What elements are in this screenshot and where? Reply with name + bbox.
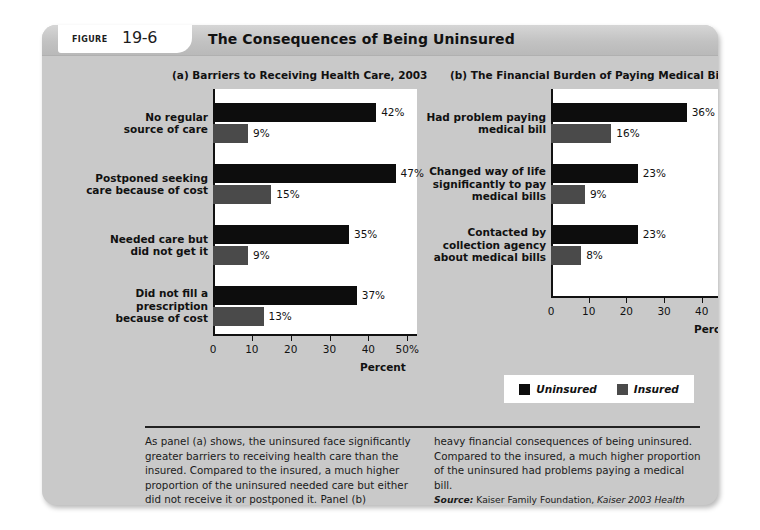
tick-label-0-40: 40 bbox=[362, 343, 375, 355]
tick-0-40 bbox=[368, 336, 369, 341]
bar-value-insured-0: 9% bbox=[253, 127, 270, 139]
tick-label-0-0: 0 bbox=[210, 343, 217, 355]
tick-0-50 bbox=[407, 336, 408, 341]
bar-uninsured-2 bbox=[213, 225, 349, 244]
bar-uninsured-2 bbox=[551, 225, 638, 244]
bar-value-insured-2: 8% bbox=[586, 249, 603, 261]
bar-insured-1 bbox=[213, 185, 271, 204]
tick-label-1-30: 30 bbox=[657, 305, 670, 317]
caption-column-left: As panel (a) shows, the uninsured face s… bbox=[145, 434, 412, 505]
caption-text-right: heavy financial consequences of being un… bbox=[434, 434, 701, 492]
bar-value-insured-3: 13% bbox=[269, 310, 292, 322]
bar-value-insured-0: 16% bbox=[616, 127, 639, 139]
panel-b-xaxis-title: Percent bbox=[694, 323, 718, 335]
category-label-0-1: Postponed seeking care because of cost bbox=[48, 172, 208, 197]
figure-card: Figure 19-6 The Consequences of Being Un… bbox=[42, 25, 718, 505]
bar-insured-2 bbox=[551, 246, 581, 265]
bar-value-insured-1: 15% bbox=[276, 188, 299, 200]
figure-label: Figure bbox=[72, 32, 108, 45]
caption-column-right: heavy financial consequences of being un… bbox=[434, 434, 701, 505]
legend-item-insured: Insured bbox=[617, 383, 679, 395]
tick-1-30 bbox=[664, 298, 665, 303]
tick-label-1-0: 0 bbox=[548, 305, 555, 317]
bar-uninsured-0 bbox=[213, 103, 376, 122]
chart-legend: Uninsured Insured bbox=[504, 375, 694, 403]
figure-title: The Consequences of Being Uninsured bbox=[208, 31, 515, 47]
bar-uninsured-0 bbox=[551, 103, 687, 122]
legend-label-insured: Insured bbox=[634, 383, 679, 395]
category-label-0-3: Did not fill a prescription because of c… bbox=[48, 287, 208, 325]
source-org: Kaiser Family Foundation, bbox=[473, 494, 597, 505]
tick-0-30 bbox=[330, 336, 331, 341]
category-label-1-0: Had problem paying medical bill bbox=[386, 111, 546, 136]
tick-label-0-10: 10 bbox=[245, 343, 258, 355]
caption-divider bbox=[145, 426, 700, 428]
bar-insured-0 bbox=[213, 124, 248, 143]
tick-label-1-10: 10 bbox=[582, 305, 595, 317]
bar-value-uninsured-2: 23% bbox=[643, 228, 666, 240]
source-label: Source: bbox=[434, 494, 473, 505]
bar-uninsured-1 bbox=[213, 164, 396, 183]
category-label-1-2: Contacted by collection agency about med… bbox=[386, 226, 546, 264]
tick-label-0-50: 50% bbox=[396, 343, 419, 355]
category-label-0-2: Needed care but did not get it bbox=[48, 233, 208, 258]
bar-value-uninsured-0: 36% bbox=[692, 106, 715, 118]
caption-text-left: As panel (a) shows, the uninsured face s… bbox=[145, 434, 412, 505]
legend-swatch-insured bbox=[617, 384, 628, 395]
bar-value-uninsured-1: 23% bbox=[643, 167, 666, 179]
bar-value-insured-2: 9% bbox=[253, 249, 270, 261]
panel-a-xaxis-title: Percent bbox=[360, 361, 406, 373]
legend-label-uninsured: Uninsured bbox=[536, 383, 597, 395]
category-label-1-1: Changed way of life significantly to pay… bbox=[386, 165, 546, 203]
bar-insured-2 bbox=[213, 246, 248, 265]
category-label-0-0: No regular source of care bbox=[48, 111, 208, 136]
bar-insured-1 bbox=[551, 185, 585, 204]
figure-header-bar: Figure 19-6 The Consequences of Being Un… bbox=[42, 25, 718, 56]
figure-caption: As panel (a) shows, the uninsured face s… bbox=[145, 434, 702, 505]
panel-b-title: (b) The Financial Burden of Paying Medic… bbox=[450, 69, 718, 81]
figure-number: 19-6 bbox=[122, 28, 157, 47]
bar-value-uninsured-2: 35% bbox=[354, 228, 377, 240]
bar-insured-0 bbox=[551, 124, 611, 143]
tick-label-1-20: 20 bbox=[620, 305, 633, 317]
tick-label-1-40: 40 bbox=[695, 305, 708, 317]
caption-source: Source: Kaiser Family Foundation, Kaiser… bbox=[434, 494, 701, 505]
legend-item-uninsured: Uninsured bbox=[519, 383, 597, 395]
bar-value-uninsured-3: 37% bbox=[362, 289, 385, 301]
tick-1-40 bbox=[702, 298, 703, 303]
tick-0-20 bbox=[291, 336, 292, 341]
figure-number-pill: Figure 19-6 bbox=[58, 25, 192, 53]
tick-1-20 bbox=[626, 298, 627, 303]
bar-uninsured-3 bbox=[213, 286, 357, 305]
legend-swatch-uninsured bbox=[519, 384, 530, 395]
tick-label-0-20: 20 bbox=[284, 343, 297, 355]
panel-a-title: (a) Barriers to Receiving Health Care, 2… bbox=[172, 69, 427, 81]
tick-1-10 bbox=[589, 298, 590, 303]
tick-label-0-30: 30 bbox=[323, 343, 336, 355]
tick-0-10 bbox=[252, 336, 253, 341]
bar-insured-3 bbox=[213, 307, 264, 326]
bar-uninsured-1 bbox=[551, 164, 638, 183]
bar-value-insured-1: 9% bbox=[590, 188, 607, 200]
